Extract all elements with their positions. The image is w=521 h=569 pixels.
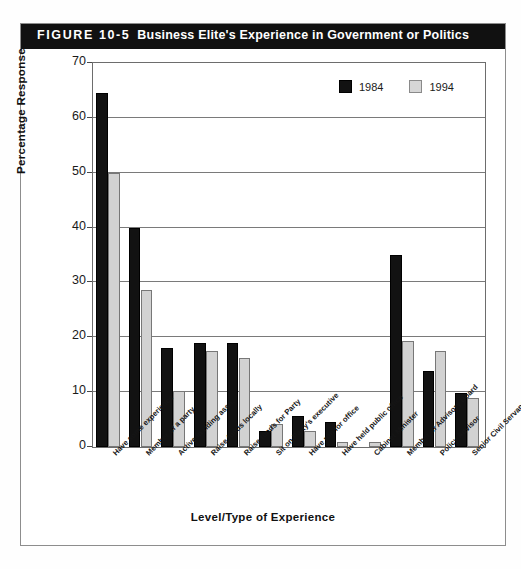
x-tick-label: Member of Advisory Board	[405, 451, 411, 457]
x-tick-label: Sit on Party's executive	[274, 451, 280, 457]
x-axis-ticks: Have some experienceMember of a partyAct…	[21, 24, 505, 545]
x-axis-title: Level/Type of Experience	[21, 511, 505, 523]
x-tick-label: Policy Advisor	[438, 451, 444, 457]
x-tick-label: Have run for office	[307, 451, 313, 457]
x-tick-label: Raise funds locally	[209, 451, 215, 457]
x-tick-label: Cabinet Minister	[372, 451, 378, 457]
x-tick-label: Active in riding assn.	[176, 451, 182, 457]
figure-container: FIGURE 10-5Business Elite's Experience i…	[20, 23, 506, 546]
figure-screenshot: FIGURE 10-5Business Elite's Experience i…	[0, 0, 521, 569]
x-tick-label: Raise funds for Party	[242, 451, 248, 457]
x-tick-label: Senior Civil Servant	[470, 451, 476, 457]
x-tick-label: Have held public office	[340, 451, 346, 457]
x-tick-label: Member of a party	[144, 451, 150, 457]
x-tick-label: Have some experience	[111, 451, 117, 457]
